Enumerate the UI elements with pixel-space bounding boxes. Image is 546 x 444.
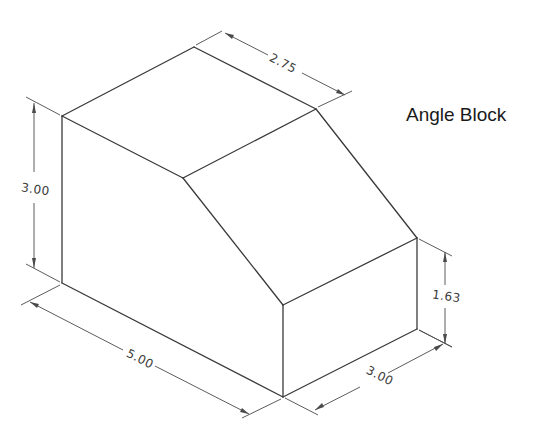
dim-label-width: 3.00	[364, 363, 396, 389]
dimension-width: 3.00	[285, 330, 452, 415]
dimension-top-depth: 2.75	[196, 31, 352, 107]
block-outline	[62, 47, 417, 397]
dim-label-length: 5.00	[124, 346, 156, 372]
dimension-length: 5.00	[21, 285, 281, 418]
dim-label-overall-height: 3.00	[20, 180, 50, 198]
dim-label-top-depth: 2.75	[267, 51, 299, 77]
dimension-overall-height: 3.00	[20, 97, 60, 282]
dim-label-lower-height: 1.63	[431, 287, 461, 305]
dimension-lower-height: 1.63	[419, 239, 462, 347]
isometric-angle-block-drawing: 2.75 3.00 1.63 5.00 3.00	[0, 0, 546, 444]
